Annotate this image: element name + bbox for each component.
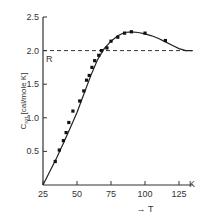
data-point xyxy=(85,79,88,82)
data-point xyxy=(123,32,126,35)
y-axis-label: Crot [cal/mole K] xyxy=(19,73,29,130)
chart: 0.51.01.52.02.5255075100125K→ TCrot [cal… xyxy=(0,0,212,220)
data-point xyxy=(143,32,146,35)
reference-label-R: R xyxy=(46,54,53,64)
data-point xyxy=(164,39,167,42)
data-point xyxy=(109,40,112,43)
x-tick-label: 50 xyxy=(72,189,82,199)
data-point xyxy=(67,121,70,124)
data-point xyxy=(93,59,96,62)
y-tick-label: 2.5 xyxy=(26,12,39,22)
y-tick-label: 1.5 xyxy=(26,79,39,89)
x-tick-label: 25 xyxy=(38,189,48,199)
x-tick-label: 125 xyxy=(171,189,186,199)
data-point xyxy=(54,160,57,163)
data-point xyxy=(71,109,74,112)
x-tick-label: 75 xyxy=(106,189,116,199)
data-point xyxy=(130,30,133,33)
data-point xyxy=(78,99,81,102)
data-point xyxy=(105,46,108,49)
data-point xyxy=(82,89,85,92)
x-tick-label: 100 xyxy=(137,189,152,199)
data-point xyxy=(65,131,68,134)
data-point xyxy=(90,66,93,69)
y-tick-label: 0.5 xyxy=(26,146,39,156)
data-point xyxy=(62,139,65,142)
data-point xyxy=(58,148,61,151)
x-unit-label: K xyxy=(189,179,195,189)
data-point xyxy=(97,54,100,57)
y-tick-label: 2.0 xyxy=(26,46,39,56)
x-axis-label: → T xyxy=(137,204,154,214)
theory-curve xyxy=(43,32,193,185)
data-point xyxy=(88,74,91,77)
data-point xyxy=(116,36,119,39)
data-point xyxy=(100,49,103,52)
